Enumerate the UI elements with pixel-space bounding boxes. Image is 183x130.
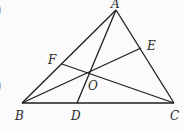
point-label-B: B [14,109,24,123]
triangle-diagram: ) ) ABCDEFO [0,0,183,130]
point-label-D: D [70,109,81,123]
segments [22,10,174,103]
margin-paren-bottom: ) [0,79,2,93]
margin-paren-top: ) [0,3,2,17]
point-label-F: F [47,53,57,67]
point-labels: ABCDEFO [14,0,179,123]
segment-BE [22,48,141,103]
point-label-C: C [170,109,179,123]
point-label-O: O [88,79,98,93]
point-label-A: A [110,0,120,11]
point-label-E: E [146,39,156,53]
geometry-figure: ) ) ABCDEFO [0,0,183,130]
segment-CA [116,10,174,103]
segment-AB [22,10,116,103]
